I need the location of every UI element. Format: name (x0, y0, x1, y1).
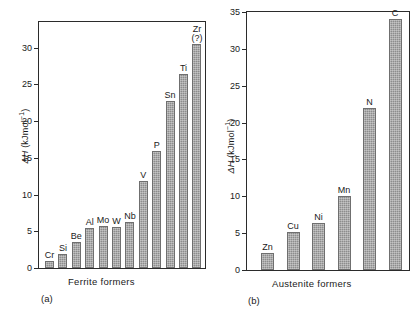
y-tick-10 (34, 195, 39, 196)
y-tick-label-20: 20 (230, 118, 240, 127)
bar-label-Zn: Zn (262, 242, 273, 252)
bar-Mn (338, 196, 351, 270)
bar-group-C: C (389, 12, 402, 270)
bar-label-Cr: Cr (45, 250, 55, 260)
bar-label-Sn: Sn (165, 90, 176, 100)
plot-area-b: ZnCuNiMnNC 05101520253035 (246, 11, 410, 271)
bar-Si (58, 254, 67, 268)
bar-W (112, 227, 121, 268)
y-tick-0 (34, 268, 39, 269)
bar-label-Nb: Nb (124, 211, 136, 221)
bar-series-b: ZnCuNiMnNC (247, 12, 409, 270)
bar-group-Mo: Mo (99, 22, 108, 268)
y-tick-label-25: 25 (230, 81, 240, 90)
chart-panel-b: ΔH (kJmol−1) ZnCuNiMnNC 05101520253035 A… (212, 0, 412, 310)
panel-tag-a: (a) (41, 293, 53, 304)
y-tick-label-5: 5 (27, 227, 32, 236)
bar-Zr (192, 44, 201, 268)
y-tick-25 (34, 84, 39, 85)
bar-P (152, 151, 161, 268)
bar-label-Cu: Cu (287, 221, 299, 231)
bar-Sn (166, 101, 175, 268)
bar-label-V: V (140, 170, 146, 180)
bar-group-Zn: Zn (261, 12, 274, 270)
bar-series-a: CrSiBeAlMoWNbVPSnTiZr(?) (39, 22, 205, 268)
bar-group-Si: Si (58, 22, 67, 268)
y-tick-15 (34, 158, 39, 159)
panel-tag-b: (b) (248, 295, 260, 306)
bar-group-Al: Al (85, 22, 94, 268)
units-close-a: ) (20, 109, 30, 112)
bar-label-Be: Be (71, 231, 82, 241)
bar-N (363, 108, 376, 270)
bar-group-Be: Be (72, 22, 81, 268)
bar-Zn (261, 253, 274, 270)
y-tick-label-15: 15 (230, 155, 240, 164)
bar-label-C: C (392, 8, 399, 18)
bar-label-Zr: Zr(?) (191, 24, 202, 43)
y-tick-10 (242, 196, 247, 197)
bar-group-Ni: Ni (312, 12, 325, 270)
y-tick-30 (34, 48, 39, 49)
bar-group-Cu: Cu (287, 12, 300, 270)
bar-C (389, 19, 402, 270)
y-tick-label-10: 10 (22, 190, 32, 199)
bar-label-Ni: Ni (314, 212, 323, 222)
bar-label-Si: Si (59, 243, 67, 253)
bar-Ni (312, 223, 325, 270)
bar-group-N: N (363, 12, 376, 270)
bar-label-Mn: Mn (338, 185, 351, 195)
bar-Nb (125, 222, 134, 268)
bar-label-P: P (154, 140, 160, 150)
bar-Mo (99, 226, 108, 268)
plot-area-a: CrSiBeAlMoWNbVPSnTiZr(?) 051015202530 (38, 21, 206, 269)
figure-root: ΔH (kJmol−1) CrSiBeAlMoWNbVPSnTiZr(?) 05… (0, 0, 412, 310)
chart-panel-a: ΔH (kJmol−1) CrSiBeAlMoWNbVPSnTiZr(?) 05… (0, 0, 212, 310)
bar-label-Mo: Mo (97, 215, 110, 225)
bar-Cu (287, 232, 300, 270)
y-tick-label-15: 15 (22, 153, 32, 162)
y-tick-5 (34, 231, 39, 232)
group-caption-a: Ferrite formers (68, 276, 135, 287)
bar-Ti (179, 74, 188, 268)
y-tick-label-0: 0 (27, 264, 32, 273)
y-tick-20 (34, 121, 39, 122)
bar-label-W: W (112, 216, 121, 226)
y-tick-15 (242, 159, 247, 160)
bar-group-W: W (112, 22, 121, 268)
y-tick-20 (242, 123, 247, 124)
bar-Al (85, 228, 94, 268)
y-tick-label-30: 30 (230, 44, 240, 53)
bar-group-P: P (152, 22, 161, 268)
bar-Cr (45, 261, 54, 268)
bar-group-Sn: Sn (166, 22, 175, 268)
delta-symbol-b: Δ (226, 167, 236, 173)
y-tick-label-0: 0 (235, 266, 240, 275)
bar-label-N: N (366, 97, 373, 107)
y-tick-label-5: 5 (235, 229, 240, 238)
y-tick-30 (242, 49, 247, 50)
y-tick-25 (242, 86, 247, 87)
y-tick-label-10: 10 (230, 192, 240, 201)
group-caption-b: Austenite formers (272, 278, 352, 289)
bar-group-Cr: Cr (45, 22, 54, 268)
y-tick-label-30: 30 (22, 43, 32, 52)
bar-Be (72, 242, 81, 268)
bar-label-Al: Al (86, 217, 94, 227)
y-tick-35 (242, 12, 247, 13)
y-tick-0 (242, 270, 247, 271)
bar-group-Zr: Zr(?) (192, 22, 201, 268)
y-tick-label-20: 20 (22, 117, 32, 126)
bar-group-Nb: Nb (125, 22, 134, 268)
bar-V (139, 181, 148, 268)
bar-group-V: V (139, 22, 148, 268)
y-tick-5 (242, 233, 247, 234)
y-tick-label-25: 25 (22, 80, 32, 89)
bar-group-Mn: Mn (338, 12, 351, 270)
bar-label-Ti: Ti (180, 63, 187, 73)
y-tick-label-35: 35 (230, 8, 240, 17)
bar-group-Ti: Ti (179, 22, 188, 268)
